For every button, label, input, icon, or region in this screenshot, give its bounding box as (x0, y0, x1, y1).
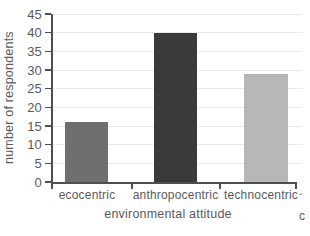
y-tick-label: 35 (12, 45, 42, 58)
x-axis-title: environmental attitude (104, 207, 231, 221)
y-tick-label: 0 (12, 176, 42, 189)
bar-anthropocentric (154, 33, 197, 182)
y-tick-label: 30 (12, 64, 42, 77)
y-tick-label: 40 (12, 26, 42, 39)
bar-chart-figure: number of respondents 051015202530354045… (0, 0, 310, 236)
gridline (52, 14, 302, 15)
x-axis-line (51, 182, 297, 184)
bar-ecocentric (65, 122, 108, 182)
plot-area: 051015202530354045ecocentricanthropocent… (0, 0, 310, 236)
x-category-label: technocentric (201, 189, 310, 202)
x-axis-tick (219, 182, 221, 189)
clipped-text-fragment-letter: c (299, 210, 305, 223)
bar-technocentric (244, 74, 288, 182)
y-tick-label: 20 (12, 101, 42, 114)
y-tick-label: 10 (12, 138, 42, 151)
y-axis-line (51, 14, 53, 184)
x-axis-tick (51, 182, 53, 189)
y-tick-label: 45 (12, 8, 42, 21)
y-tick-label: 25 (12, 82, 42, 95)
y-tick-label: 15 (12, 120, 42, 133)
y-tick-label: 5 (12, 157, 42, 170)
clipped-text-fragment-dot: . (299, 184, 303, 197)
